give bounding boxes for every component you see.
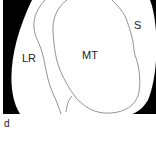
- panel-label: d: [4, 118, 10, 129]
- region-label-lr: LR: [22, 52, 36, 64]
- region-label-mt: MT: [82, 49, 98, 61]
- region-label-s: S: [134, 19, 141, 31]
- diagram-figure: LR MT S d: [0, 0, 156, 165]
